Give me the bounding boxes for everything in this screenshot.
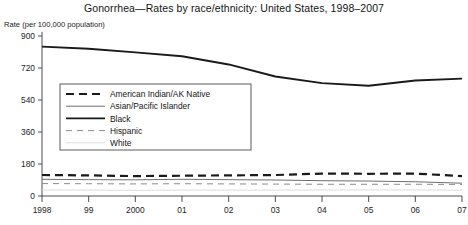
- y-tick-label: 720: [21, 63, 35, 73]
- x-tick-label: 05: [364, 205, 374, 215]
- chart-container: Gonorrhea—Rates by race/ethnicity: Unite…: [0, 0, 468, 225]
- y-tick-label: 540: [21, 95, 35, 105]
- x-tick-label: 1998: [33, 205, 52, 215]
- x-tick-label: 07: [457, 205, 467, 215]
- x-tick-label: 01: [177, 205, 187, 215]
- x-tick-label: 99: [84, 205, 94, 215]
- series-line: [42, 174, 462, 176]
- chart-legend: American Indian/AK NativeAsian/Pacific I…: [60, 84, 251, 150]
- series-line: [42, 179, 462, 183]
- y-tick-label: 360: [21, 127, 35, 137]
- x-tick-label: 2000: [126, 205, 145, 215]
- y-tick-label: 180: [21, 159, 35, 169]
- x-tick-label: 02: [224, 205, 234, 215]
- series-line: [42, 47, 462, 86]
- legend-label: Hispanic: [110, 126, 142, 136]
- y-axis-ticks: 0180360540720900: [21, 31, 42, 201]
- legend-label: Black: [110, 114, 131, 124]
- y-tick-label: 0: [30, 191, 35, 201]
- legend-label: American Indian/AK Native: [110, 89, 210, 99]
- x-axis-ticks: 199899200001020304050607: [33, 196, 467, 215]
- x-tick-label: 03: [271, 205, 281, 215]
- series-line: [42, 184, 462, 185]
- plot-area: 0180360540720900 19989920000102030405060…: [0, 0, 468, 225]
- x-tick-label: 04: [317, 205, 327, 215]
- x-tick-label: 06: [411, 205, 421, 215]
- legend-label: White: [110, 138, 132, 148]
- legend-label: Asian/Pacific Islander: [110, 101, 190, 111]
- y-tick-label: 900: [21, 31, 35, 41]
